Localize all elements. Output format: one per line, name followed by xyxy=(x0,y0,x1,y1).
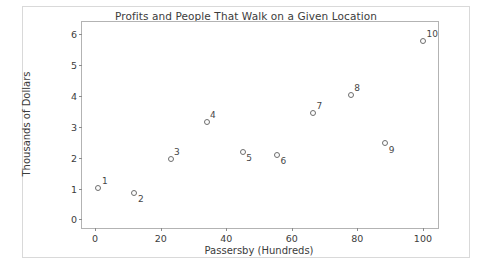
data-point-label: 6 xyxy=(281,157,287,166)
y-tick-label: 1 xyxy=(71,183,77,194)
data-point-label: 4 xyxy=(210,111,216,120)
x-tick-label: 20 xyxy=(155,233,167,244)
data-point-marker xyxy=(310,110,316,116)
y-tick-label: 6 xyxy=(71,29,77,40)
x-tick-label: 0 xyxy=(92,233,98,244)
data-point-label: 7 xyxy=(317,102,323,111)
data-point-label: 9 xyxy=(389,146,395,155)
y-tick-mark xyxy=(79,127,82,128)
x-tick-mark xyxy=(95,228,96,231)
data-point-label: 5 xyxy=(246,154,252,163)
x-tick-label: 60 xyxy=(286,233,298,244)
data-point-marker xyxy=(204,119,210,125)
x-tick-mark xyxy=(226,228,227,231)
data-point-label: 1 xyxy=(102,177,108,186)
data-point-marker xyxy=(168,156,174,162)
x-tick-mark xyxy=(423,228,424,231)
y-tick-mark xyxy=(79,65,82,66)
y-tick-mark xyxy=(79,219,82,220)
y-tick-label: 4 xyxy=(71,91,77,102)
plot-area: 12345678910 0123456020406080100 xyxy=(81,21,439,229)
y-axis-label: Thousands of Dollars xyxy=(21,72,32,177)
x-tick-mark xyxy=(357,228,358,231)
data-point-marker xyxy=(131,190,137,196)
data-point-marker xyxy=(95,185,101,191)
data-point-label: 10 xyxy=(426,30,437,39)
y-tick-mark xyxy=(79,34,82,35)
x-tick-label: 100 xyxy=(414,233,432,244)
y-tick-mark xyxy=(79,189,82,190)
data-point-label: 3 xyxy=(174,148,180,157)
y-tick-label: 5 xyxy=(71,60,77,71)
y-tick-mark xyxy=(79,158,82,159)
y-tick-label: 3 xyxy=(71,121,77,132)
data-point-label: 2 xyxy=(138,195,144,204)
x-axis-label: Passersby (Hundreds) xyxy=(81,245,437,256)
x-tick-label: 40 xyxy=(220,233,232,244)
scatter-plot-figure: Profits and People That Walk on a Given … xyxy=(0,0,492,266)
y-tick-mark xyxy=(79,96,82,97)
y-tick-label: 2 xyxy=(71,152,77,163)
y-tick-label: 0 xyxy=(71,214,77,225)
data-point-marker xyxy=(348,92,354,98)
data-point-label: 8 xyxy=(354,84,360,93)
data-point-marker xyxy=(240,149,246,155)
data-point-marker xyxy=(274,152,280,158)
x-tick-label: 80 xyxy=(351,233,363,244)
data-point-marker xyxy=(382,140,388,146)
x-tick-mark xyxy=(292,228,293,231)
data-point-marker xyxy=(420,38,426,44)
x-tick-mark xyxy=(161,228,162,231)
plot-canvas: 12345678910 xyxy=(82,22,438,228)
